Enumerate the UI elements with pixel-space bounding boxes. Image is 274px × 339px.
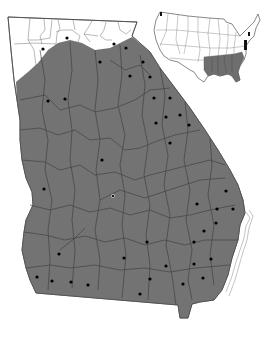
county-record-dot <box>192 240 195 243</box>
county-record-dot <box>141 60 144 63</box>
county-record-dot <box>138 292 141 295</box>
county-record-dot <box>65 36 68 39</box>
county-record-dot <box>181 282 184 285</box>
county-record-dot <box>224 189 227 192</box>
county-record-dot <box>112 42 115 45</box>
us-inset-map <box>154 12 260 82</box>
county-record-dot <box>122 256 125 259</box>
county-record-dot <box>46 99 49 102</box>
county-record-dot <box>148 277 151 280</box>
county-record-dot <box>187 123 190 126</box>
county-record-dot <box>195 202 198 205</box>
county-record-dot <box>98 60 101 63</box>
county-record-dot <box>154 121 157 124</box>
county-record-dot <box>57 252 60 255</box>
county-record-dot <box>201 276 204 279</box>
county-record-dot <box>168 96 171 99</box>
county-record-dot <box>215 207 218 210</box>
county-record-dot <box>128 74 131 77</box>
county-record-dot <box>209 257 212 260</box>
mid-atlantic-mark <box>244 40 247 50</box>
northeast-mark <box>248 32 250 36</box>
county-record-dot <box>164 264 167 267</box>
distribution-map <box>0 0 274 339</box>
county-record-dot <box>168 141 171 144</box>
county-record-dot <box>63 97 66 100</box>
county-record-dot <box>111 194 114 197</box>
county-record-dot <box>86 283 89 286</box>
county-record-dot <box>214 221 217 224</box>
county-record-dot <box>50 279 53 282</box>
county-record-dot <box>41 47 44 50</box>
county-record-dot <box>124 46 127 49</box>
county-record-dot <box>202 229 205 232</box>
county-record-dot <box>192 262 195 265</box>
washington-mark <box>160 12 162 16</box>
county-record-dot <box>164 115 167 118</box>
county-record-dot <box>35 275 38 278</box>
county-record-dot <box>100 158 103 161</box>
county-record-dot <box>231 207 234 210</box>
county-record-dot <box>42 187 45 190</box>
county-record-dot <box>69 280 72 283</box>
county-record-dot <box>152 96 155 99</box>
county-record-dot <box>178 113 181 116</box>
county-record-dot <box>145 240 148 243</box>
county-record-dot <box>148 75 151 78</box>
